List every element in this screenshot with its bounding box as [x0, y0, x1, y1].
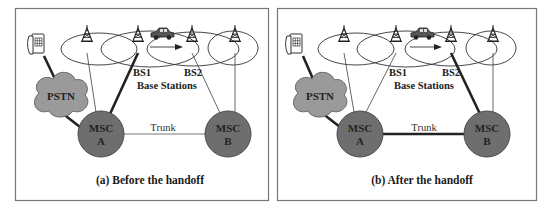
msc-b-label: MSC — [475, 122, 500, 134]
caption-before-handoff: (a) Before the handoff — [96, 174, 204, 187]
telephone-icon — [286, 34, 302, 54]
panel-before-handoff: PSTN MSC A MSC B Trunk BS1 BS2 Base Stat… — [16, 9, 269, 201]
active-link-msca-bs1 — [110, 53, 138, 114]
bs1-label: BS1 — [133, 67, 151, 78]
trunk-label: Trunk — [150, 122, 176, 133]
bs2-label: BS2 — [184, 67, 202, 78]
base-stations-label: Base Stations — [394, 80, 454, 91]
msc-a-label: MSC — [348, 122, 373, 134]
bs2-label: BS2 — [442, 67, 460, 78]
telephone-icon — [28, 34, 44, 54]
pstn-label: PSTN — [47, 90, 75, 102]
trunk-label: Trunk — [411, 122, 437, 133]
arrow-icon — [175, 44, 183, 50]
base-stations-label: Base Stations — [137, 80, 197, 91]
pstn-label: PSTN — [306, 90, 334, 102]
car-icon — [151, 28, 174, 40]
cell-tower-icon — [390, 25, 402, 42]
msc-a-label: MSC — [89, 122, 114, 134]
msc-b-sublabel: B — [224, 135, 232, 147]
msc-b-sublabel: B — [483, 135, 491, 147]
cell-tower-icon — [132, 25, 144, 42]
handoff-diagram: PSTN MSC A MSC B Trunk BS1 BS2 Base Stat… — [0, 0, 547, 211]
car-icon — [411, 28, 434, 40]
msc-a-node — [78, 111, 124, 157]
cell-tower-icon — [487, 25, 499, 42]
bs1-label: BS1 — [389, 67, 407, 78]
msc-b-node — [464, 111, 510, 157]
active-link-mscb-bs2 — [451, 53, 480, 114]
msc-b-label: MSC — [216, 122, 241, 134]
caption-after-handoff: (b) After the handoff — [371, 174, 473, 187]
cell-tower-icon — [186, 25, 198, 42]
msc-a-node — [337, 111, 383, 157]
cell-tower-icon — [229, 25, 241, 42]
msc-b-node — [205, 111, 251, 157]
arrow-icon — [434, 44, 442, 50]
msc-a-sublabel: A — [356, 135, 364, 147]
cell-tower-icon — [445, 25, 457, 42]
msc-a-sublabel: A — [97, 135, 105, 147]
panel-after-handoff: PSTN MSC A MSC B Trunk BS1 BS2 Base Stat… — [278, 9, 537, 201]
